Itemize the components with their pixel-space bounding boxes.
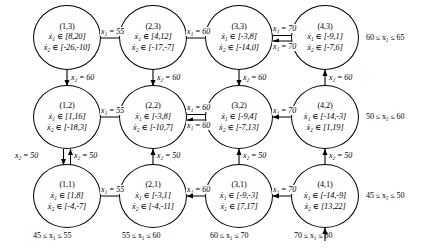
node-4-1[interactable]: (4,1) ẋ₁ ∈ [-14,-9] ẋ₂ ∈ [13,22] xyxy=(291,164,359,228)
node-3-1-x2: ẋ₂ ∈ [7,17] xyxy=(220,201,257,212)
edge-label-c2-r3r2: x₂ = 60 xyxy=(156,73,181,82)
node-2-2[interactable]: (2,2) ẋ₁ ∈ [-3,8] ẋ₂ ∈ [-10,7] xyxy=(119,85,187,149)
node-1-1-x2: ẋ₂ ∈ [-4,-7] xyxy=(48,201,86,212)
edge-label-c1-r2r1-left: x₂ = 50 xyxy=(14,151,39,160)
column-label-3: 60 ≤ x₁ ≤ 70 xyxy=(210,231,248,240)
node-3-2-x2: ẋ₂ ∈ [-7,13] xyxy=(219,122,259,133)
node-4-1-x1: ẋ₁ ∈ [-14,-9] xyxy=(304,190,346,201)
node-1-2-x1: ẋ₁ ∈ [1,16] xyxy=(48,111,85,122)
node-2-3[interactable]: (2,3) ẋ₁ ∈ [4,12] ẋ₂ ∈ [-17,-7] xyxy=(119,5,187,70)
node-2-2-id: (2,2) xyxy=(145,101,160,111)
node-2-2-x2: ẋ₂ ∈ [-10,7] xyxy=(133,122,173,133)
edge-label-c1-r2r1-right: x₂ = 50 xyxy=(73,151,98,160)
edge-label-r3-c2c3: x₁ = 60 xyxy=(186,27,211,36)
column-label-4: 70 ≤ x₁ ≤ 80 xyxy=(294,231,332,240)
node-2-1-id: (2,1) xyxy=(145,180,160,190)
node-2-3-id: (2,3) xyxy=(145,22,160,32)
node-4-3[interactable]: (4,3) ẋ₁ ∈ [-9,1] ẋ₂ ∈ [-7,6] xyxy=(291,5,359,70)
node-1-3[interactable]: (1,3) ẋ₁ ∈ [8,20] ẋ₂ ∈ [-26,-10] xyxy=(33,5,101,70)
node-3-1-x1: ẋ₁ ∈ [-9,-3] xyxy=(220,190,258,201)
edge-label-r3-c1c2: x₁ = 55 xyxy=(100,27,125,36)
node-1-3-x2: ẋ₂ ∈ [-26,-10] xyxy=(44,42,91,53)
node-3-1-id: (3,1) xyxy=(231,180,246,190)
node-3-3-x1: ẋ₁ ∈ [-3,8] xyxy=(221,31,257,42)
node-2-1-x1: ẋ₁ ∈ [-3,1] xyxy=(135,190,171,201)
edge-label-r1-c1c2: x₁ = 55 xyxy=(100,185,125,194)
column-label-2: 55 ≤ x₁ ≤ 60 xyxy=(122,231,160,240)
row-label-2: 50 ≤ x₂ ≤ 60 xyxy=(366,112,404,121)
node-4-3-x1: ẋ₁ ∈ [-9,1] xyxy=(307,31,343,42)
node-2-1-x2: ẋ₂ ∈ [-4,-11] xyxy=(132,201,174,212)
edge-label-r2-c2c3-top: x₁ = 60 xyxy=(186,103,211,112)
node-4-2-x1: ẋ₁ ∈ [-14,-3] xyxy=(304,111,346,122)
node-4-2[interactable]: (4,2) ẋ₁ ∈ [-14,-3] ẋ₂ ∈ [1,19] xyxy=(291,85,359,149)
node-4-1-id: (4,1) xyxy=(317,180,332,190)
node-3-2-x1: ẋ₁ ∈ [-9,4] xyxy=(221,111,257,122)
edge-label-r1-c3c4: x₁ = 70 xyxy=(272,185,297,194)
edge-label-c4-r3r2: x₂ = 60 xyxy=(328,73,353,82)
node-4-3-x2: ẋ₂ ∈ [-7,6] xyxy=(307,42,343,53)
node-2-3-x1: ẋ₁ ∈ [4,12] xyxy=(134,31,171,42)
edge-label-r3-c3c4-bottom: x₁ = 70 xyxy=(272,42,297,51)
node-2-1[interactable]: (2,1) ẋ₁ ∈ [-3,1] ẋ₂ ∈ [-4,-11] xyxy=(119,164,187,228)
edge-label-c3-r2r1: x₂ = 50 xyxy=(242,151,267,160)
row-label-1: 45 ≤ x₂ ≤ 50 xyxy=(366,191,404,200)
node-3-3-x2: ẋ₂ ∈ [-14,0] xyxy=(219,42,259,53)
edge-label-c4-r2r1: x₂ = 50 xyxy=(328,151,353,160)
edge-label-c3-r3r2: x₂ = 60 xyxy=(242,73,267,82)
node-4-2-id: (4,2) xyxy=(317,101,332,111)
edge-label-r2-c1c2: x₁ = 55 xyxy=(100,106,125,115)
node-3-3[interactable]: (3,3) ẋ₁ ∈ [-3,8] ẋ₂ ∈ [-14,0] xyxy=(205,5,273,70)
row-label-3: 60 ≤ x₂ ≤ 65 xyxy=(366,33,404,42)
node-1-1[interactable]: (1,1) ẋ₁ ∈ [1,8] ẋ₂ ∈ [-4,-7] xyxy=(33,164,101,228)
column-label-1: 45 ≤ x₁ ≤ 55 xyxy=(33,231,71,240)
node-1-1-id: (1,1) xyxy=(59,180,74,190)
edge-label-r3-c3c4-top: x₁ = 70 xyxy=(272,24,297,33)
node-4-2-x2: ẋ₂ ∈ [1,19] xyxy=(306,122,343,133)
node-2-2-x1: ẋ₁ ∈ [-3,8] xyxy=(135,111,171,122)
node-4-3-id: (4,3) xyxy=(317,22,332,32)
node-2-3-x2: ẋ₂ ∈ [-17,-7] xyxy=(132,42,174,53)
node-3-3-id: (3,3) xyxy=(231,22,246,32)
node-1-2-x2: ẋ₂ ∈ [-18,3] xyxy=(47,122,87,133)
node-1-2-id: (1,2) xyxy=(59,101,74,111)
node-3-1[interactable]: (3,1) ẋ₁ ∈ [-9,-3] ẋ₂ ∈ [7,17] xyxy=(205,164,273,228)
edge-label-r2-c2c3-bottom: x₁ = 60 xyxy=(186,121,211,130)
edge-label-r2-c3c4: x₁ = 70 xyxy=(272,106,297,115)
node-3-2-id: (3,2) xyxy=(231,101,246,111)
node-1-2[interactable]: (1,2) ẋ₁ ∈ [1,16] ẋ₂ ∈ [-18,3] xyxy=(33,85,101,149)
node-1-3-x1: ẋ₁ ∈ [8,20] xyxy=(48,31,85,42)
state-transition-diagram: (1,3) ẋ₁ ∈ [8,20] ẋ₂ ∈ [-26,-10] (2,3) ẋ… xyxy=(0,0,425,248)
edge-label-c2-r2r1: x₂ = 50 xyxy=(156,151,181,160)
node-1-3-id: (1,3) xyxy=(59,22,74,32)
edge-label-c1-r3r2: x₂ = 60 xyxy=(70,73,95,82)
node-4-1-x2: ẋ₂ ∈ [13,22] xyxy=(304,201,345,212)
node-1-1-x1: ẋ₁ ∈ [1,8] xyxy=(50,190,83,201)
edge-label-r1-c2c3: x₁ = 60 xyxy=(186,185,211,194)
node-3-2[interactable]: (3,2) ẋ₁ ∈ [-9,4] ẋ₂ ∈ [-7,13] xyxy=(205,85,273,149)
